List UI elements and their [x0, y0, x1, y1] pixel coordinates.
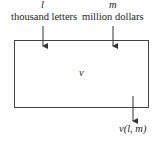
input-unit-l: thousand letters: [11, 12, 77, 23]
input-unit-m: million dollars: [82, 12, 144, 23]
output-label: v(l, m): [119, 124, 146, 135]
box-label: v: [79, 68, 84, 79]
input-symbol-m: m: [109, 0, 117, 11]
input-symbol-l: l: [41, 0, 44, 11]
